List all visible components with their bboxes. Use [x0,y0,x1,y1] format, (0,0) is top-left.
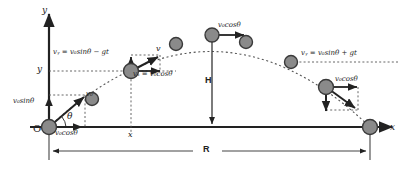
vy-equation-descending: vᵧ = v₀sinθ + gt [301,50,357,57]
ball-ascend-3 [170,38,183,51]
ball-apex [205,28,219,42]
y-tick-label: y [37,65,42,74]
ball-landing [363,120,378,135]
vx-equation-ascending: vₓ = v₀cosθ [133,71,172,78]
v0-label: v₀ [86,91,93,98]
vy-equation-ascending: vᵧ = v₀sinθ − gt [53,49,109,56]
height-label: H [205,76,212,85]
origin-label: O [33,124,41,134]
x-axis-label: x [390,123,395,132]
v0-cos-theta-label-descending: v₀cosθ [335,76,358,83]
ball-descend-3 [319,80,334,95]
v0-cos-theta-label-apex: v₀cosθ [218,22,241,29]
v0-sin-theta-label: v₀sinθ [13,98,34,105]
v-resultant-label: v [156,45,161,53]
ball-descend-2 [285,56,298,69]
guide-lines [49,55,400,133]
angle-label: θ [67,112,72,121]
ball-descend-1 [240,36,253,49]
angle-arc [62,117,66,127]
x-tick-label: x [128,131,133,139]
y-axis-label: y [42,6,47,15]
projectile-motion-figure: y x O y x θ v₀sinθ v₀cosθ v₀ vᵧ = v₀sinθ… [0,0,407,172]
v0-cos-theta-label: v₀cosθ [55,130,78,137]
range-label: R [203,145,210,154]
